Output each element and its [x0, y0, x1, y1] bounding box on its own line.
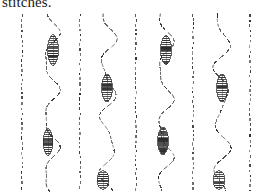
wave-segment — [169, 162, 172, 165]
wave-segment — [173, 154, 174, 156]
wave-segment — [214, 170, 215, 173]
wave-segment — [113, 145, 114, 147]
wave-segment — [115, 92, 116, 95]
wave-segment — [213, 69, 214, 71]
wave-segment — [160, 23, 161, 26]
wave-segment — [51, 155, 55, 158]
wave-segment — [221, 136, 225, 139]
wave-segment — [217, 161, 220, 164]
wave-segment — [49, 19, 52, 22]
wave-segment — [161, 81, 163, 84]
wave-segment — [172, 95, 174, 98]
straight-2 — [80, 14, 81, 189]
wave-segment — [223, 34, 226, 37]
wave-segment — [159, 181, 160, 183]
stitch-3a — [161, 35, 172, 65]
wave-segment — [100, 112, 101, 115]
wave-segment — [218, 115, 219, 118]
wave-segment — [57, 150, 59, 153]
stitches-diagram — [0, 0, 272, 193]
wavy-2 — [97, 14, 117, 191]
stitch-3b — [158, 127, 169, 155]
wave-segment — [165, 87, 167, 89]
wave-segment — [47, 160, 49, 163]
stitch-2a — [102, 74, 113, 102]
wave-segment — [173, 158, 174, 160]
wavy-1 — [43, 14, 60, 191]
wave-segment — [229, 151, 231, 154]
wave-segment — [173, 101, 175, 104]
wave-segment — [112, 44, 115, 46]
wave-segment — [104, 163, 108, 166]
wave-segment — [174, 39, 175, 42]
wave-segment — [101, 121, 103, 124]
wave-segment — [52, 98, 55, 101]
stitch-1b — [43, 129, 53, 156]
figure-root: stitches. — [0, 0, 272, 193]
stitch-1a — [48, 35, 59, 66]
wave-segment — [115, 33, 117, 36]
wave-segment — [54, 24, 57, 26]
wave-segment — [55, 139, 58, 142]
wave-segment — [47, 14, 48, 17]
wave-segment — [223, 155, 227, 158]
wave-segment — [103, 19, 104, 22]
wave-segment — [47, 71, 48, 74]
wave-segment — [105, 49, 109, 52]
wave-segment — [48, 189, 49, 191]
wave-segment — [47, 103, 49, 106]
wave-segment — [160, 125, 161, 127]
wavy-4 — [213, 14, 231, 191]
wave-segment — [164, 166, 167, 169]
wave-segment — [220, 110, 221, 113]
wave-segment — [116, 39, 117, 42]
wave-segment — [109, 131, 110, 134]
wave-segment — [159, 116, 160, 119]
straight-3 — [136, 14, 137, 191]
straight-5 — [250, 14, 251, 191]
wave-segment — [113, 155, 114, 157]
wave-segment — [172, 44, 173, 46]
stitch-4b — [213, 171, 225, 190]
wave-segment — [168, 148, 171, 151]
wave-segment — [110, 136, 111, 138]
wave-segment — [103, 108, 105, 110]
wave-segment — [228, 39, 230, 42]
wave-segment — [59, 33, 60, 35]
wave-segment — [105, 126, 107, 129]
wave-segment — [105, 23, 108, 26]
wave-segment — [104, 69, 105, 71]
wave-segment — [111, 188, 112, 191]
stitch-4a — [217, 74, 228, 102]
wave-segment — [159, 171, 161, 174]
wave-segment — [59, 87, 60, 90]
wave-segment — [50, 76, 53, 79]
straight-4 — [193, 14, 194, 190]
wave-segment — [99, 117, 100, 119]
wave-segment — [110, 158, 112, 160]
stitch-2b — [97, 171, 109, 190]
wave-segment — [111, 140, 112, 143]
wave-segment — [102, 54, 104, 57]
wave-segment — [107, 103, 111, 106]
wave-segment — [231, 145, 232, 148]
wave-segment — [114, 97, 116, 100]
wave-segment — [46, 184, 47, 187]
wave-segment — [169, 91, 171, 93]
wave-segment — [218, 24, 219, 26]
wave-segment — [163, 28, 165, 30]
wave-segment — [214, 166, 215, 169]
wave-segment — [217, 130, 219, 133]
wavy-3 — [158, 14, 175, 191]
wave-segment — [168, 33, 172, 36]
wave-segment — [222, 105, 223, 108]
wave-segment — [160, 185, 161, 187]
wave-segment — [219, 29, 221, 32]
wave-segment — [167, 106, 171, 109]
wave-segment — [219, 55, 223, 58]
wave-segment — [109, 28, 112, 31]
wave-segment — [55, 82, 58, 85]
wave-segment — [162, 112, 164, 114]
wave-segment — [226, 50, 229, 53]
wave-segment — [216, 120, 217, 123]
